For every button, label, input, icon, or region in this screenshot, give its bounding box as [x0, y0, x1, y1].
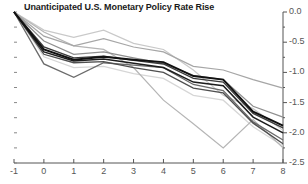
- x-tick-label: 4: [161, 166, 166, 176]
- x-tick-label: 3: [131, 166, 136, 176]
- y-tick-label: -1.0: [289, 66, 305, 76]
- y-tick-label: -2.5: [289, 157, 305, 167]
- y-tick-label: -0.5: [289, 36, 305, 46]
- x-axis-ticks: [14, 159, 283, 163]
- chart-container: Unanticipated U.S. Monetary Policy Rate …: [0, 0, 308, 184]
- x-tick-label: 7: [251, 166, 256, 176]
- line-chart-plot: [0, 0, 308, 184]
- x-tick-label: 0: [41, 166, 46, 176]
- axis-frame: [14, 12, 283, 163]
- x-tick-label: 1: [71, 166, 76, 176]
- y-axis-ticks: [283, 12, 287, 163]
- series-line-series-7-lightgray-high: [14, 12, 283, 88]
- x-tick-label: 5: [191, 166, 196, 176]
- x-tick-label: 6: [221, 166, 226, 176]
- y-axis-left-minor-ticks: [14, 12, 17, 163]
- series-line-series-2-black: [14, 12, 283, 133]
- series-line-series-4-midgray: [14, 12, 283, 144]
- x-tick-label: 8: [280, 166, 285, 176]
- x-tick-label: 2: [101, 166, 106, 176]
- y-tick-label: 0.0: [289, 6, 302, 16]
- y-tick-label: -1.5: [289, 97, 305, 107]
- y-tick-label: -2.0: [289, 127, 305, 137]
- x-tick-label: -1: [10, 166, 18, 176]
